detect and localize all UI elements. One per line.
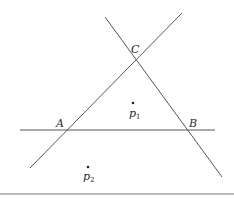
p1-subscript: 1	[136, 113, 140, 121]
point-label-p1: p1	[129, 107, 141, 121]
vertex-label-c: C	[131, 43, 140, 56]
p1-main: p	[129, 107, 136, 120]
vertex-label-b: B	[188, 117, 197, 130]
point-p1-dot	[132, 102, 135, 105]
vertex-label-a: A	[55, 117, 64, 130]
point-p2-dot	[87, 166, 90, 169]
geometry-diagram: A B C p1 p2	[0, 0, 234, 198]
line-bc	[105, 17, 222, 177]
p2-main: p	[83, 170, 90, 183]
p2-subscript: 2	[90, 176, 94, 184]
point-label-p2: p2	[83, 170, 95, 184]
